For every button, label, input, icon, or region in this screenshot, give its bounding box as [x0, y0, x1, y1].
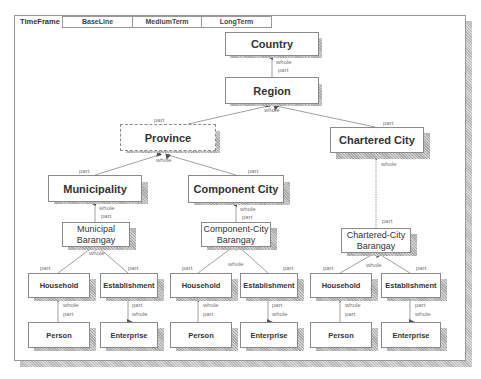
node-label: Chartered-City — [347, 230, 406, 241]
node-label: Country — [251, 38, 293, 50]
node-component-city-barangay[interactable]: Component-City Barangay — [201, 222, 271, 247]
node-establishment[interactable]: Establishment — [381, 273, 441, 298]
edge-label-whole: whole — [366, 262, 382, 268]
edge-label-whole: whole — [272, 311, 288, 317]
node-enterprise[interactable]: Enterprise — [381, 322, 441, 348]
node-label: Person — [188, 331, 213, 340]
node-label: Enterprise — [392, 331, 429, 340]
node-household[interactable]: Household — [170, 273, 232, 298]
edge-label-part: part — [278, 67, 288, 73]
node-municipal-barangay[interactable]: Municipal Barangay — [62, 222, 130, 247]
node-enterprise[interactable]: Enterprise — [240, 322, 298, 348]
edge-label-part: part — [79, 168, 89, 174]
edge-label-part: part — [154, 117, 164, 123]
node-label: Household — [182, 281, 221, 290]
edge-label-part: part — [382, 218, 392, 224]
node-label: Municipal — [77, 224, 115, 235]
node-person[interactable]: Person — [170, 322, 232, 348]
edge-label-part: part — [182, 265, 192, 271]
node-label: Enterprise — [250, 331, 287, 340]
edge-label-whole: whole — [99, 205, 115, 211]
node-label: Person — [328, 331, 353, 340]
node-municipality[interactable]: Municipality — [48, 175, 142, 202]
edge-label-whole: whole — [89, 250, 105, 256]
node-label: Municipality — [63, 183, 127, 195]
edge-label-whole: whole — [63, 302, 79, 308]
edge-label-part: part — [63, 311, 73, 317]
node-label: Household — [322, 281, 361, 290]
edge-label-part: part — [345, 311, 355, 317]
edge-label-whole: whole — [264, 107, 280, 113]
node-label: Household — [40, 281, 79, 290]
node-label: Barangay — [217, 235, 256, 246]
node-label: Region — [253, 85, 290, 97]
node-label: Barangay — [77, 235, 116, 246]
node-region[interactable]: Region — [225, 77, 319, 104]
node-component-city[interactable]: Component City — [188, 175, 284, 203]
edge-label-part: part — [248, 168, 258, 174]
edge-label-whole: whole — [132, 311, 148, 317]
edge-label-whole: whole — [228, 261, 244, 267]
edge-label-part: part — [323, 265, 333, 271]
edge-label-part: part — [128, 265, 138, 271]
edge-label-whole: whole — [415, 311, 431, 317]
node-household[interactable]: Household — [28, 273, 90, 298]
node-label: Establishment — [243, 281, 294, 290]
edge-label-part: part — [40, 265, 50, 271]
node-label: Enterprise — [110, 331, 147, 340]
node-label: Establishment — [103, 281, 154, 290]
node-enterprise[interactable]: Enterprise — [100, 322, 158, 348]
node-label: Barangay — [357, 241, 396, 252]
edge-label-part: part — [415, 302, 425, 308]
node-person[interactable]: Person — [28, 322, 90, 348]
edge-label-part: part — [101, 213, 111, 219]
edge-label-part: part — [272, 302, 282, 308]
node-label: Province — [145, 132, 191, 144]
edge-label-whole: whole — [276, 59, 292, 65]
edge-label-whole: whole — [345, 302, 361, 308]
node-chartered-city-barangay[interactable]: Chartered-City Barangay — [341, 228, 411, 253]
node-person[interactable]: Person — [310, 322, 372, 348]
node-household[interactable]: Household — [310, 273, 372, 298]
edge-label-part: part — [283, 265, 293, 271]
node-establishment[interactable]: Establishment — [100, 273, 158, 298]
node-country[interactable]: Country — [225, 32, 319, 56]
edge-label-whole: whole — [203, 302, 219, 308]
node-establishment[interactable]: Establishment — [240, 273, 298, 298]
node-label: Chartered City — [339, 134, 415, 146]
edge-label-part: part — [203, 311, 213, 317]
edge-label-part: part — [416, 265, 426, 271]
node-label: Person — [46, 331, 71, 340]
edge-label-part: part — [383, 120, 393, 126]
node-label: Establishment — [385, 281, 436, 290]
node-chartered-city[interactable]: Chartered City — [330, 127, 424, 153]
edge-label-whole: whole — [381, 161, 397, 167]
node-label: Component-City — [203, 224, 268, 235]
edge-label-whole: whole — [240, 206, 256, 212]
edge-label-part: part — [242, 214, 252, 220]
edge-label-whole: whole — [156, 157, 172, 163]
edge-label-part: part — [132, 302, 142, 308]
node-label: Component City — [194, 183, 279, 195]
node-province[interactable]: Province — [120, 124, 216, 151]
